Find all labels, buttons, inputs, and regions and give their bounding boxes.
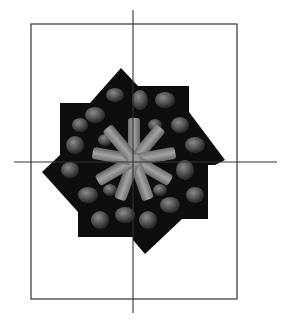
star-micrograph <box>40 60 230 260</box>
figure-canvas <box>0 0 281 328</box>
